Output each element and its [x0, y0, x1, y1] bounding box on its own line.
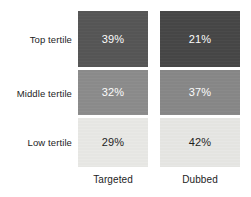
cell-value-top-tertile-dubbed: 21%	[189, 34, 212, 45]
column-label-targeted: Targeted	[78, 174, 148, 185]
row-label-middle-tertile: Middle tertile	[0, 88, 72, 99]
column-label-dubbed: Dubbed	[160, 174, 240, 185]
cell-top-tertile-dubbed: 21%	[160, 11, 240, 67]
cell-value-middle-tertile-targeted: 32%	[102, 87, 125, 98]
row-label-low-tertile: Low tertile	[0, 137, 72, 148]
tertile-percentage-matrix-figure: Top tertile Middle tertile Low tertile 3…	[0, 0, 251, 197]
cell-top-tertile-targeted: 39%	[78, 11, 148, 67]
cell-value-top-tertile-targeted: 39%	[102, 34, 125, 45]
cell-value-low-tertile-dubbed: 42%	[189, 137, 212, 148]
cell-middle-tertile-targeted: 32%	[78, 70, 148, 115]
cell-middle-tertile-dubbed: 37%	[160, 70, 240, 115]
cell-value-middle-tertile-dubbed: 37%	[189, 87, 212, 98]
cell-low-tertile-dubbed: 42%	[160, 118, 240, 167]
cell-value-low-tertile-targeted: 29%	[102, 137, 125, 148]
row-label-top-tertile: Top tertile	[0, 34, 72, 45]
cell-low-tertile-targeted: 29%	[78, 118, 148, 167]
